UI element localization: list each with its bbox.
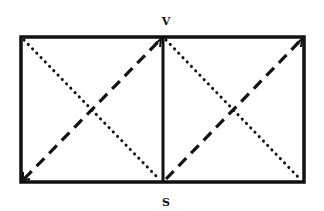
diagram-canvas: V S <box>0 0 324 211</box>
bottom-label-s: S <box>162 197 170 208</box>
diagram-svg <box>0 0 324 211</box>
top-label-v: V <box>162 16 171 27</box>
